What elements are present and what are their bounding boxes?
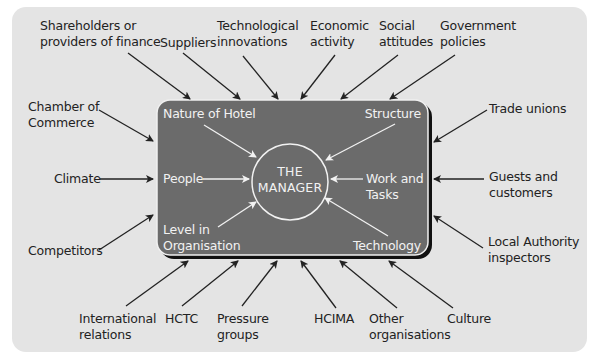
external-factor-competitors: Competitors — [28, 243, 103, 259]
chamber-of-commerce-line2: Commerce — [28, 115, 99, 131]
government-policies-line1: Government — [440, 18, 516, 34]
work-and-tasks-line1: Work and — [366, 171, 424, 187]
internal-factor-structure: Structure — [330, 106, 421, 122]
external-factor-local-authority-inspectors: Local Authority inspectors — [488, 234, 579, 266]
manager-label-line1: THE — [250, 164, 330, 180]
external-factor-government-policies: Government policies — [440, 18, 516, 50]
external-factor-social-attitudes: Social attitudes — [379, 18, 433, 50]
external-factor-pressure-groups: Pressure groups — [217, 311, 269, 343]
external-factor-shareholders: Shareholders or providers of finance — [40, 18, 161, 50]
guests-and-customers-line1: Guests and — [489, 169, 558, 185]
economic-activity-line1: Economic — [310, 18, 369, 34]
level-in-organisation-line2: Organisation — [163, 238, 240, 254]
technological-innovations-line1: Technological — [217, 18, 299, 34]
social-attitudes-line2: attitudes — [379, 34, 433, 50]
pressure-groups-line1: Pressure — [217, 311, 269, 327]
other-organisations-line1: Other — [369, 311, 451, 327]
manager-label-line2: MANAGER — [250, 180, 330, 196]
external-factor-economic-activity: Economic activity — [310, 18, 369, 50]
internal-factor-level-in-organisation: Level in Organisation — [163, 222, 240, 254]
external-factor-international-relations: International relations — [79, 311, 156, 343]
economic-activity-line2: activity — [310, 34, 369, 50]
internal-factor-technology: Technology — [330, 238, 421, 254]
external-factor-technological-innovations: Technological innovations — [217, 18, 299, 50]
local-authority-inspectors-line2: inspectors — [488, 250, 579, 266]
shareholders-line1: Shareholders or — [40, 18, 161, 34]
internal-factor-nature-of-hotel: Nature of Hotel — [163, 106, 256, 122]
pressure-groups-line2: groups — [217, 327, 269, 343]
government-policies-line2: policies — [440, 34, 516, 50]
chamber-of-commerce-line1: Chamber of — [28, 99, 99, 115]
manager-label: THE MANAGER — [250, 164, 330, 196]
external-factor-other-organisations: Other organisations — [369, 311, 451, 343]
external-factor-culture: Culture — [447, 311, 491, 327]
work-and-tasks-line2: Tasks — [366, 187, 424, 203]
level-in-organisation-line1: Level in — [163, 222, 240, 238]
guests-and-customers-line2: customers — [489, 185, 558, 201]
external-factor-guests-and-customers: Guests and customers — [489, 169, 558, 201]
external-factor-hcima: HCIMA — [314, 311, 354, 327]
external-factor-chamber-of-commerce: Chamber of Commerce — [28, 99, 99, 131]
other-organisations-line2: organisations — [369, 327, 451, 343]
international-relations-line2: relations — [79, 327, 156, 343]
technological-innovations-line2: innovations — [217, 34, 299, 50]
social-attitudes-line1: Social — [379, 18, 433, 34]
internal-factor-work-and-tasks: Work and Tasks — [366, 171, 424, 203]
internal-factor-people: People — [163, 171, 203, 187]
external-factor-trade-unions: Trade unions — [489, 101, 566, 117]
external-factor-hctc: HCTC — [165, 311, 198, 327]
international-relations-line1: International — [79, 311, 156, 327]
external-factor-suppliers: Suppliers — [160, 35, 216, 51]
external-factor-climate: Climate — [54, 171, 101, 187]
local-authority-inspectors-line1: Local Authority — [488, 234, 579, 250]
shareholders-line2: providers of finance — [40, 34, 161, 50]
